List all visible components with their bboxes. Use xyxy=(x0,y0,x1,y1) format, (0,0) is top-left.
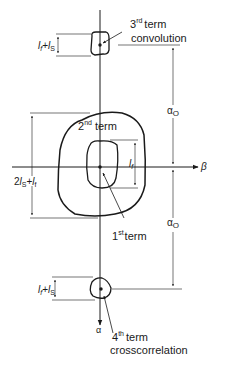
third-term-size-label: lf+lS xyxy=(38,40,55,52)
first-term-region: 1stterm lf xyxy=(87,140,147,242)
beta-axis-label: β xyxy=(200,161,207,172)
fourth-term-label: 4thterm xyxy=(112,330,148,343)
third-term-region: 3rdterm convolution lf+lS xyxy=(38,17,187,56)
upper-alpha0-dimension: αO xyxy=(118,45,180,164)
second-term-region: 2ndterm 2lS+lf xyxy=(14,112,145,218)
first-term-size-label: lf xyxy=(129,158,134,170)
third-term-pointer xyxy=(103,32,122,43)
third-term-label: 3rdterm xyxy=(130,17,166,30)
third-term-description: convolution xyxy=(131,32,187,44)
alpha-axis-label: α xyxy=(96,325,101,335)
fourth-term-pointer xyxy=(104,296,113,333)
fourth-term-description: crosscorrelation xyxy=(110,344,188,356)
second-term-label: 2ndterm xyxy=(78,119,117,132)
beta-axis: β xyxy=(12,161,207,172)
diagram-svg: α β 3rdterm convolution lf+lS αO αO 2ndt… xyxy=(0,0,228,368)
lower-alpha0-label: αO xyxy=(167,217,179,230)
first-term-label: 1stterm xyxy=(112,229,147,242)
fourth-term-center-dot xyxy=(99,287,102,290)
fourth-term-size-label: lf+lS xyxy=(38,284,55,296)
origin-dot xyxy=(98,165,102,169)
fourier-plane-diagram: α β 3rdterm convolution lf+lS αO αO 2ndt… xyxy=(0,0,228,368)
second-term-size-label: 2lS+lf xyxy=(14,176,37,188)
alpha-axis: α xyxy=(96,10,101,335)
first-term-pointer xyxy=(103,173,124,218)
upper-alpha0-label: αO xyxy=(167,105,179,118)
third-term-center-dot xyxy=(98,43,101,46)
